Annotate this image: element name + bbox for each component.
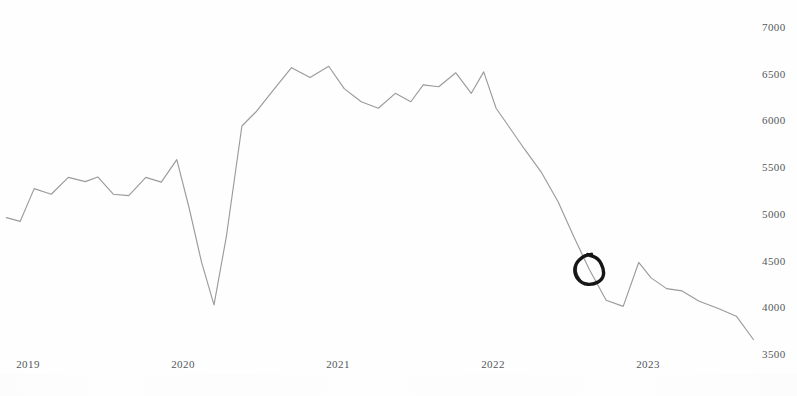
y-axis-tick-3500: 3500	[762, 348, 786, 360]
line-chart-plot	[0, 0, 797, 396]
y-axis-tick-5000: 5000	[762, 208, 786, 220]
x-axis-tick-2019: 2019	[16, 358, 40, 370]
x-axis-tick-2023: 2023	[636, 358, 660, 370]
x-axis-tick-2020: 2020	[171, 358, 195, 370]
series-1-line	[6, 66, 753, 339]
y-axis-tick-4000: 4000	[762, 301, 786, 313]
y-axis-tick-6500: 6500	[762, 68, 786, 80]
y-axis-tick-4500: 4500	[762, 255, 786, 267]
chart-page: 70006500600055005000450040003500 2019202…	[0, 0, 797, 396]
y-axis-tick-5500: 5500	[762, 161, 786, 173]
y-axis-tick-6000: 6000	[762, 114, 786, 126]
y-axis-tick-7000: 7000	[762, 21, 786, 33]
x-axis-tick-2022: 2022	[481, 358, 505, 370]
x-axis-tick-2021: 2021	[326, 358, 350, 370]
